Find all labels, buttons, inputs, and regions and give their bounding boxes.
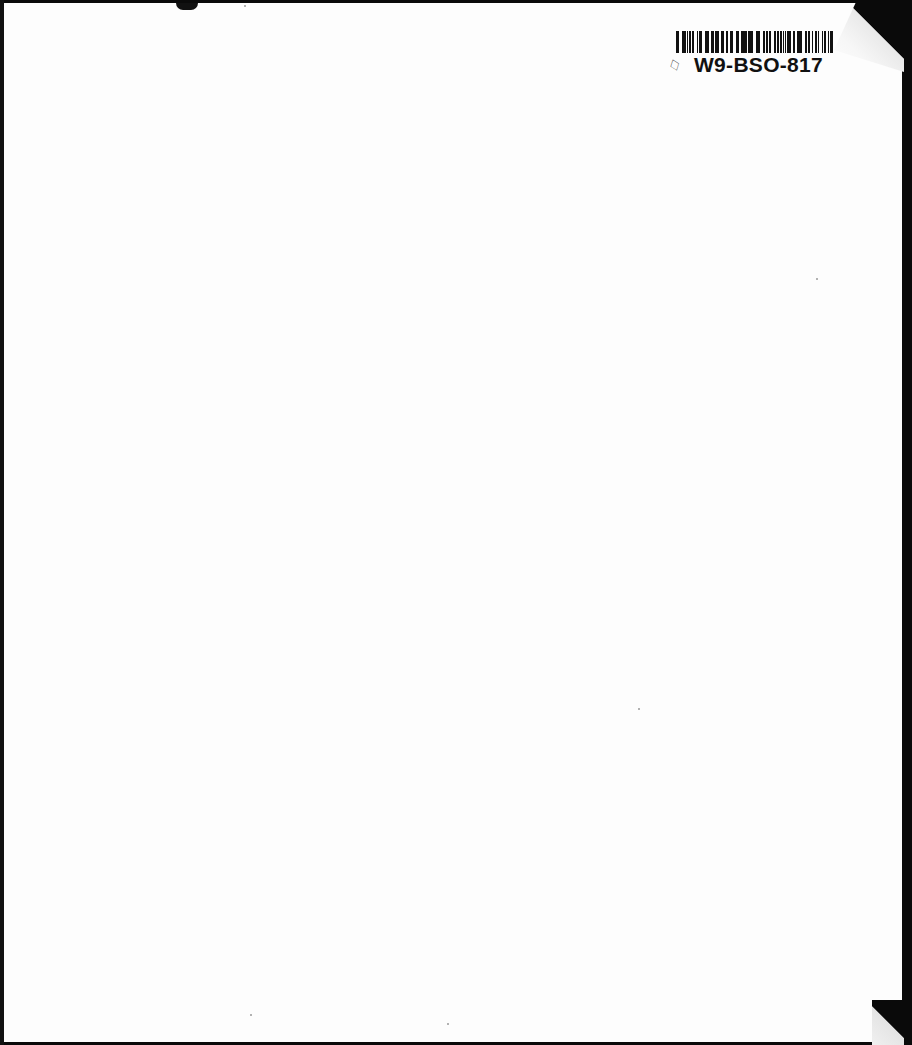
barcode bbox=[676, 31, 836, 53]
barcode-id: W9-BSO-817 bbox=[694, 53, 823, 77]
book-outline-icon: ♢ bbox=[666, 54, 688, 75]
barcode-label: ♢ W9-BSO-817 bbox=[664, 27, 842, 81]
page-notch bbox=[176, 3, 198, 10]
scan-speck bbox=[447, 1023, 449, 1025]
blank-page: ♢ W9-BSO-817 bbox=[4, 3, 902, 1042]
scan-speck bbox=[816, 278, 818, 280]
scan-border-left bbox=[0, 0, 4, 1045]
scan-speck bbox=[638, 708, 640, 710]
scan-speck bbox=[250, 1014, 252, 1016]
page-curl-bottom-right bbox=[872, 1000, 904, 1045]
scan-speck bbox=[244, 5, 246, 7]
